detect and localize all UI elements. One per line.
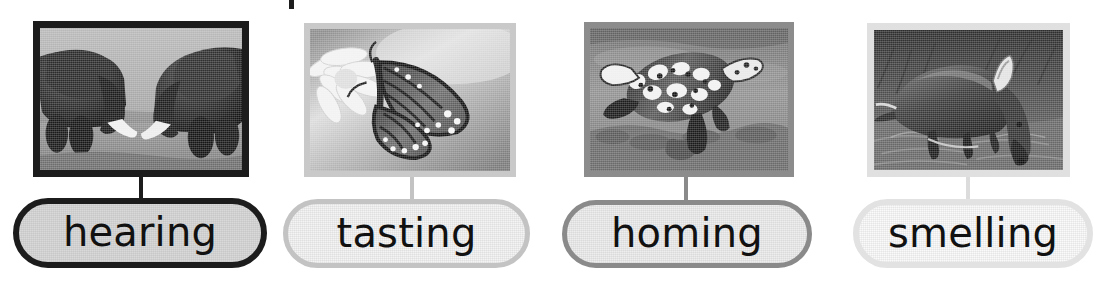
elephants-artwork [40, 28, 242, 170]
word-pill-homing[interactable]: homing [562, 200, 812, 268]
photo-aardvark [874, 30, 1063, 170]
aardvark-artwork [874, 30, 1063, 170]
sea-turtle-artwork [590, 28, 788, 171]
connector-homing [684, 177, 688, 200]
photo-frame-hearing [33, 21, 249, 177]
photo-elephants [40, 28, 242, 170]
photo-sea-turtle [590, 28, 788, 171]
worksheet-canvas: hearing [0, 0, 1108, 288]
photo-frame-homing [584, 22, 794, 177]
word-pill-smelling[interactable]: smelling [853, 199, 1093, 268]
pill-label-homing: homing [611, 213, 763, 253]
word-pill-tasting[interactable]: tasting [283, 199, 530, 268]
cropped-title-remnant [289, 0, 294, 9]
photo-frame-tasting [304, 23, 516, 177]
connector-hearing [139, 177, 143, 199]
butterfly-artwork [310, 29, 510, 171]
photo-butterfly [310, 29, 510, 171]
photo-frame-smelling [867, 23, 1070, 177]
pill-label-smelling: smelling [888, 213, 1058, 253]
pill-label-hearing: hearing [63, 212, 217, 252]
word-pill-hearing[interactable]: hearing [13, 198, 267, 268]
pill-label-tasting: tasting [337, 213, 477, 253]
connector-smelling [966, 177, 970, 199]
connector-tasting [410, 177, 414, 199]
